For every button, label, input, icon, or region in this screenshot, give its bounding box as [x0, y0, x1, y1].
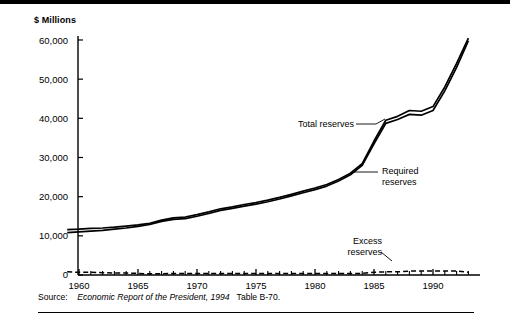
source-label: Source: [38, 292, 68, 302]
axis-lines [78, 36, 480, 275]
source-note: Source: Economic Report of the President… [38, 292, 280, 302]
series-line-total-reserves [67, 38, 468, 230]
annotation-required-reserves: Required reserves [382, 166, 452, 187]
x-axis-ticks [79, 269, 468, 275]
annotation-total-reserves-line1: Total reserves [244, 119, 354, 130]
data-series-group [67, 38, 468, 274]
plot-area [0, 0, 510, 325]
annotation-excess-reserves-line1: Excess [310, 236, 382, 247]
annotation-required-reserves-line2: reserves [382, 177, 452, 188]
series-line-required-reserves [67, 41, 468, 233]
annotation-required-reserves-line1: Required [382, 166, 452, 177]
figure-container: $ Millions 60,000 50,000 40,000 30,000 2… [0, 0, 510, 325]
annotation-total-reserves: Total reserves [244, 119, 354, 130]
y-axis-ticks [78, 40, 83, 275]
annotation-excess-reserves-line2: reserves [310, 247, 382, 258]
source-publication: Economic Report of the President, 1994 [77, 292, 229, 302]
source-table-ref: Table B-70. [237, 292, 280, 302]
annotation-excess-reserves: Excess reserves [310, 236, 382, 257]
bottom-rule-divider [38, 312, 474, 313]
